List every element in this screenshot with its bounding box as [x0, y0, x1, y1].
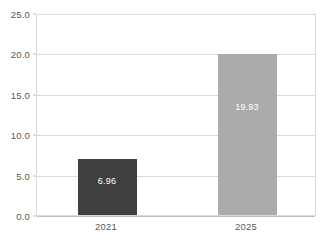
y-tick-label: 20.0 [11, 49, 30, 60]
y-tick-label: 10.0 [11, 130, 30, 141]
bar-value-label-2025: 19.93 [218, 102, 277, 112]
x-tick-label-2025: 2025 [235, 221, 257, 232]
plot-area: 6.9619.93 [36, 14, 316, 216]
x-axis: 20212025 [36, 221, 316, 241]
y-tick-label: 15.0 [11, 89, 30, 100]
bar-value-label-2021: 6.96 [78, 176, 137, 186]
gridline-25.0 [37, 14, 315, 15]
y-tick-label: 25.0 [11, 9, 30, 20]
y-tick-label: 5.0 [16, 170, 30, 181]
y-axis: 0.05.010.015.020.025.0 [0, 0, 36, 250]
gridline-0.0 [37, 216, 315, 217]
x-tick-label-2021: 2021 [95, 221, 117, 232]
bar-2025: 19.93 [218, 54, 277, 215]
bar-chart: 0.05.010.015.020.025.0 6.9619.93 2021202… [0, 0, 325, 250]
y-tick-label: 0.0 [16, 211, 30, 222]
bar-2021: 6.96 [78, 159, 137, 215]
